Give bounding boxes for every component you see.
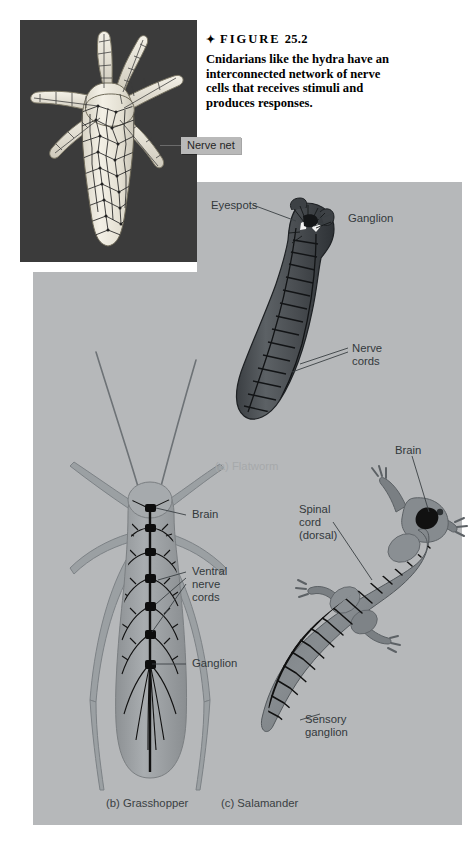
figure-number: 25.2	[285, 32, 308, 46]
label-sensory-ganglion: Sensory ganglion	[305, 713, 348, 739]
label-ganglion-grasshopper: Ganglion	[192, 657, 237, 670]
label-spinal-cord: Spinal cord (dorsal)	[299, 503, 337, 542]
subcaption-salamander: (c) Salamander	[221, 797, 298, 810]
label-eyespots: Eyespots	[211, 199, 257, 212]
figure-page: Nerve net ✦FIGURE25.2 Cnidarians like th…	[0, 0, 476, 846]
diamond-icon: ✦	[206, 33, 215, 45]
subcaption-flatworm: (a) Flatworm	[215, 460, 278, 473]
gray-panel-top	[197, 182, 462, 272]
label-ganglion-flatworm: Ganglion	[348, 212, 393, 225]
label-brain-grasshopper: Brain	[192, 508, 218, 521]
figure-title-word: FIGURE	[220, 32, 281, 46]
figure-title: ✦FIGURE25.2	[206, 32, 406, 47]
hydra-panel	[20, 20, 197, 262]
nerve-net-callout: Nerve net	[181, 137, 241, 154]
subcaption-grasshopper: (b) Grasshopper	[106, 797, 188, 810]
figure-caption-text: Cnidarians like the hydra have an interc…	[206, 52, 406, 110]
nerve-net-leader-line	[160, 145, 182, 146]
figure-caption-block: ✦FIGURE25.2 Cnidarians like the hydra ha…	[206, 32, 406, 110]
label-brain-salamander: Brain	[395, 444, 421, 457]
label-ventral-nerve-cords: Ventral nerve cords	[192, 565, 227, 604]
hydra-illustration	[20, 20, 197, 262]
label-nerve-cords: Nerve cords	[352, 342, 382, 368]
gray-panel-main	[33, 272, 462, 825]
